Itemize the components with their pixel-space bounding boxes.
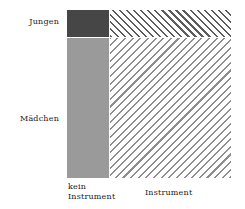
mosaic-plot: Jungen Mädchen kein Instrument Instrumen…	[0, 0, 245, 209]
column-label-kein-instrument: kein Instrument	[68, 182, 115, 202]
cell-jungen-instrument	[110, 10, 231, 37]
row-label-maedchen: Mädchen	[0, 114, 59, 124]
cell-jungen-kein-instrument	[67, 10, 109, 37]
column-label-instrument: Instrument	[145, 188, 192, 198]
cell-maedchen-kein-instrument	[67, 38, 109, 178]
plot-area	[67, 10, 231, 178]
row-label-jungen: Jungen	[0, 17, 59, 27]
cell-maedchen-instrument	[110, 38, 231, 178]
